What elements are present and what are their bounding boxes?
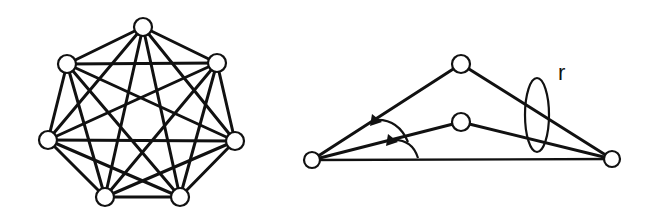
node-top (452, 55, 470, 73)
edge-middle-right (461, 122, 612, 159)
edge-2-5 (48, 140, 235, 141)
node-4 (96, 188, 114, 206)
edge-1-6 (67, 63, 217, 64)
node-2 (226, 132, 244, 150)
node-0 (134, 18, 152, 36)
diagram-canvas: r (0, 0, 659, 216)
node-3 (171, 188, 189, 206)
node-right (604, 151, 620, 167)
node-1 (208, 54, 226, 72)
edge-0-6 (67, 27, 143, 64)
edge-2-6 (67, 64, 235, 141)
node-5 (39, 131, 57, 149)
edge-left-right (312, 159, 612, 160)
complete-graph-edges (48, 27, 235, 197)
path-graph: r (304, 55, 620, 168)
edge-left-middle (312, 122, 461, 160)
node-left (304, 152, 320, 168)
ellipse-label-r: r (558, 60, 565, 85)
node-middle (452, 113, 470, 131)
edge-0-1 (143, 27, 217, 63)
node-6 (58, 55, 76, 73)
